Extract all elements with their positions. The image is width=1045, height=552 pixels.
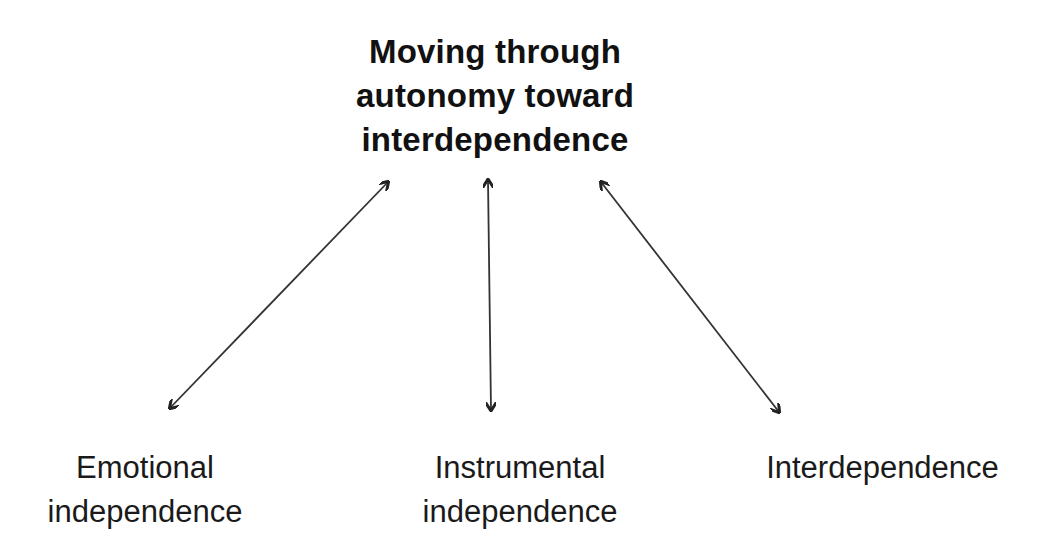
node-label-line: Interdependence [730, 446, 1035, 490]
node-label-line: Instrumental [395, 446, 645, 490]
node-emotional-independence: Emotional independence [20, 446, 270, 534]
node-instrumental-independence: Instrumental independence [395, 446, 645, 534]
arrow-title-interdependence [601, 182, 779, 412]
node-label-line: independence [395, 490, 645, 534]
arrow-title-emotional [170, 182, 388, 408]
node-label-line: independence [20, 490, 270, 534]
node-interdependence: Interdependence [730, 446, 1035, 490]
arrow-title-instrumental [488, 180, 491, 410]
node-label-line: Emotional [20, 446, 270, 490]
